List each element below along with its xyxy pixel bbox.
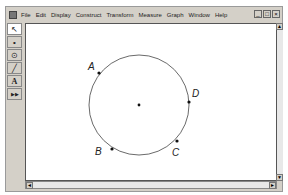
menu-help[interactable]: Help: [215, 12, 227, 18]
arrow-tool-icon[interactable]: ↖: [7, 23, 22, 35]
sketch-canvas[interactable]: [25, 23, 277, 181]
point-tool-icon[interactable]: •: [7, 36, 22, 48]
sketchpad-window: File Edit Display Construct Transform Me…: [5, 6, 283, 192]
menu-window[interactable]: Window: [189, 12, 210, 18]
menu-transform[interactable]: Transform: [106, 12, 133, 18]
menu-display[interactable]: Display: [51, 12, 71, 18]
tool-palette: ↖ • ⊙ ╱ A ▶▶: [7, 23, 23, 100]
straightedge-tool-icon[interactable]: ╱: [7, 62, 22, 74]
scroll-up-icon[interactable]: ▲: [276, 23, 283, 30]
close-button[interactable]: ×: [272, 10, 280, 18]
scroll-down-icon[interactable]: ▼: [276, 174, 283, 181]
horizontal-scrollbar[interactable]: ◄ ►: [25, 181, 277, 189]
custom-tool-icon[interactable]: ▶▶: [7, 88, 22, 100]
menu-measure[interactable]: Measure: [139, 12, 162, 18]
menu-construct[interactable]: Construct: [76, 12, 102, 18]
app-icon: [9, 11, 17, 19]
maximize-button[interactable]: □: [263, 10, 271, 18]
menu-edit[interactable]: Edit: [36, 12, 46, 18]
menu-file[interactable]: File: [21, 12, 31, 18]
minimize-button[interactable]: _: [254, 10, 262, 18]
compass-tool-icon[interactable]: ⊙: [7, 49, 22, 61]
menu-bar: File Edit Display Construct Transform Me…: [6, 8, 282, 22]
scroll-right-icon[interactable]: ►: [269, 182, 276, 189]
menu-graph[interactable]: Graph: [167, 12, 184, 18]
vertical-scrollbar[interactable]: ▲ ▼: [277, 23, 283, 181]
text-tool-icon[interactable]: A: [7, 75, 22, 87]
scroll-left-icon[interactable]: ◄: [26, 182, 33, 189]
